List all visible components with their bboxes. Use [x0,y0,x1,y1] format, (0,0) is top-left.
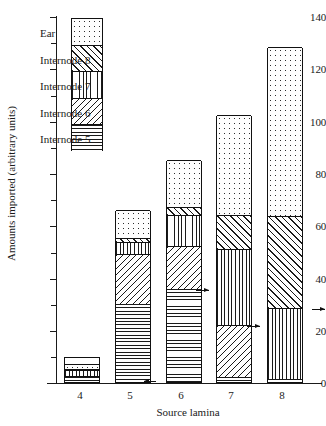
y-tick-30 [51,305,56,306]
bar-5-segment-internode-7 [116,242,150,254]
arrow-bar-6 [196,290,209,291]
bar-7-segment-internode-5 [217,377,251,382]
y-tick-70 [51,200,56,201]
arrow-bar-7 [247,326,260,327]
bar-lamina-8 [267,48,303,383]
bar-7-segment-internode-6 [217,325,251,377]
legend-label-internode-7: Internode 7 [40,80,90,92]
legend-label-internode-5: Internode 5 [40,133,90,145]
x-tick-label-8: 8 [267,389,297,401]
bar-7-segment-internode-8 [217,215,251,249]
x-tick-label-7: 7 [216,389,246,401]
legend-label-internode-8: Internode 8 [40,54,90,66]
bar-5-segment-internode-6 [116,254,150,304]
bar-6-segment-internode-8 [167,207,201,215]
bar-6-segment-internode-7 [167,215,201,246]
bar-lamina-4 [64,357,100,383]
bar-8-segment-ear [268,47,302,216]
y-tick-50 [51,253,56,254]
bar-lamina-6 [166,161,202,383]
arrow-bar-8 [312,309,325,310]
arrow-bar-5 [144,381,156,382]
bar-8-segment-internode-5 [268,379,302,382]
x-tick-label-5: 5 [115,389,145,401]
bar-4-segment-internode-5 [65,377,99,382]
x-tick-label-6: 6 [166,389,196,401]
y-tick-90 [51,148,56,149]
stacked-bar-chart: 140 120 100 80 60 40 20 0 Amounts import… [0,0,326,426]
bar-5-segment-internode-5 [116,304,150,382]
bar-7-segment-internode-7 [217,249,251,325]
x-tick-label-4: 4 [65,389,95,401]
bar-6-segment-ear [167,160,201,207]
bar-lamina-5 [115,211,151,384]
bar-8-segment-internode-7 [268,308,302,380]
legend-swatch-ear [72,19,102,46]
y-tick-80 [50,174,56,175]
x-axis-title: Source lamina [57,406,319,418]
bar-8-segment-internode-8 [268,216,302,308]
y-tick-130 [51,43,56,44]
bar-lamina-7 [216,116,252,383]
legend-label-ear: Ear [40,27,55,39]
y-axis-title: Amounts imported (arbitrary units) [6,69,17,299]
x-axis-line [47,383,322,384]
bar-5-segment-ear [116,210,150,239]
bar-6-segment-internode-5 [167,289,201,382]
y-tick-10 [51,357,56,358]
y-tick-110 [51,96,56,97]
y-tick-100 [50,122,56,123]
legend-label-internode-6: Internode 6 [40,107,90,119]
y-tick-40 [50,279,56,280]
y-tick-20 [50,331,56,332]
bar-6-segment-internode-6 [167,246,201,289]
y-tick-140 [50,17,56,18]
y-tick-60 [50,226,56,227]
y-tick-120 [50,69,56,70]
bar-7-segment-ear [217,115,251,214]
